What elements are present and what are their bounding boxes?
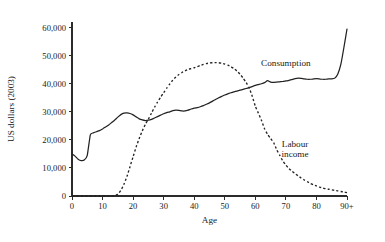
x-tick-label: 60 bbox=[251, 201, 260, 211]
y-tick-label: 60,000 bbox=[42, 23, 66, 33]
y-axis-title: US dollars (2003) bbox=[6, 76, 16, 142]
series-label-labour-income-line2: income bbox=[282, 149, 309, 159]
x-tick-label: 70 bbox=[282, 201, 291, 211]
y-tick-label: 10,000 bbox=[42, 163, 66, 173]
x-tick-label: 0 bbox=[70, 201, 74, 211]
y-tick-label: 0 bbox=[62, 191, 66, 201]
x-axis-title: Age bbox=[202, 215, 217, 225]
x-tick-label: 40 bbox=[190, 201, 199, 211]
x-tick-label: 80 bbox=[312, 201, 321, 211]
x-tick-label: 50 bbox=[220, 201, 229, 211]
y-tick-label: 50,000 bbox=[42, 51, 66, 61]
x-tick-label: 10 bbox=[98, 201, 107, 211]
y-tick-label: 40,000 bbox=[42, 79, 66, 89]
series-label-labour-income-line1: Labour bbox=[282, 139, 309, 149]
y-tick-label: 20,000 bbox=[42, 135, 66, 145]
line-chart: 010,00020,00030,00040,00050,00060,000 01… bbox=[0, 0, 385, 242]
x-tick-label: 20 bbox=[129, 201, 138, 211]
series-label-consumption: Consumption bbox=[261, 58, 311, 68]
x-tick-label: 30 bbox=[159, 201, 168, 211]
x-tick-label: 90+ bbox=[340, 201, 354, 211]
chart-figure: 010,00020,00030,00040,00050,00060,000 01… bbox=[0, 0, 385, 242]
y-tick-label: 30,000 bbox=[42, 107, 66, 117]
